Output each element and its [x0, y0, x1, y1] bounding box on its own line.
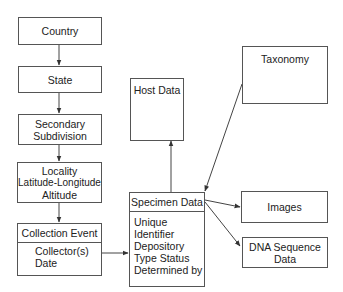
node-taxonomy-label: Taxonomy: [243, 47, 327, 65]
node-collection-event-field: Date: [35, 257, 101, 269]
node-country-label: Country: [42, 25, 79, 37]
node-specimen-data-field: Unique Identifier: [134, 216, 204, 240]
node-locality: Locality Latitude-Longitude Altitude: [17, 162, 102, 203]
node-images-label: Images: [267, 201, 301, 213]
node-specimen-data-field: Type Status: [134, 252, 204, 264]
node-dna-sequence-data-line2: Data: [274, 253, 296, 265]
node-host-data-label: Host Data: [131, 79, 183, 96]
node-collection-event-field: Collector(s): [35, 245, 101, 257]
node-collection-event-title: Collection Event: [18, 224, 101, 243]
node-host-data: Host Data: [130, 78, 184, 141]
node-locality-line1: Locality: [42, 165, 78, 177]
node-collection-event: Collection Event Collector(s) Date: [17, 223, 102, 276]
node-specimen-data-title: Specimen Data: [130, 193, 204, 212]
node-locality-line2: Latitude-Longitude: [18, 177, 101, 189]
node-dna-sequence-data: DNA Sequence Data: [242, 237, 328, 268]
node-secondary-subdivision-line1: Secondary: [35, 118, 85, 130]
node-locality-line3: Altitude: [42, 189, 77, 201]
node-dna-sequence-data-line1: DNA Sequence: [249, 241, 321, 253]
node-images: Images: [241, 191, 328, 223]
node-secondary-subdivision-line2: Subdivision: [33, 130, 87, 142]
node-state: State: [18, 66, 102, 93]
node-taxonomy: Taxonomy: [242, 46, 328, 104]
node-state-label: State: [48, 74, 73, 86]
node-specimen-data: Specimen Data Unique Identifier Deposito…: [129, 192, 205, 287]
node-specimen-data-field: Determined by: [134, 264, 204, 276]
node-country: Country: [18, 17, 102, 45]
node-secondary-subdivision: Secondary Subdivision: [18, 114, 102, 145]
node-specimen-data-field: Depository: [134, 240, 204, 252]
